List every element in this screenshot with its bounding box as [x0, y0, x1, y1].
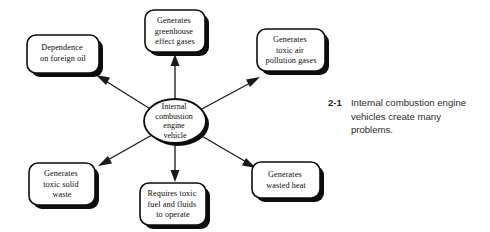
node-label: Dependence on foreign oil — [40, 43, 87, 63]
connector-to-wasted-heat — [200, 135, 248, 163]
node-toxic-solid-waste[interactable]: Generates toxic solid waste — [29, 163, 99, 209]
figure-caption-text: Internal combustion engine vehicles crea… — [351, 96, 473, 137]
arrow-head-toxic-air-pollution-gases — [246, 77, 260, 87]
arrow-head-toxic-solid-waste — [98, 156, 112, 166]
node-center-internal-combustion-engine-vehicle[interactable]: Internal combustion engine vehicle — [144, 99, 209, 146]
connector-to-dependence-foreign-oil — [104, 80, 152, 110]
figure-caption: 2-1 Internal combustion engine vehicles … — [328, 96, 488, 137]
node-toxic-fuel-fluids[interactable]: Requires toxic fuel and fluids to operat… — [140, 183, 210, 229]
connector-to-toxic-air-pollution-gases — [200, 82, 252, 110]
arrow-head-dependence-foreign-oil — [96, 75, 110, 85]
node-toxic-air-pollution-gases[interactable]: Generates toxic air pollution gases — [257, 29, 329, 75]
node-greenhouse-effect-gases[interactable]: Generates greenhouse effect gases — [145, 10, 209, 56]
figure-caption-number: 2-1 — [328, 96, 342, 110]
node-label: Generates wasted heat — [266, 170, 306, 190]
node-label: Generates greenhouse effect gases — [155, 16, 195, 46]
node-wasted-heat[interactable]: Generates wasted heat — [252, 162, 324, 202]
arrow-head-toxic-fuel-fluids — [171, 170, 180, 182]
node-dependence-foreign-oil[interactable]: Dependence on foreign oil — [27, 35, 103, 77]
connector-to-toxic-solid-waste — [106, 135, 152, 161]
figure-container: Dependence on foreign oil Generates gree… — [0, 0, 490, 232]
